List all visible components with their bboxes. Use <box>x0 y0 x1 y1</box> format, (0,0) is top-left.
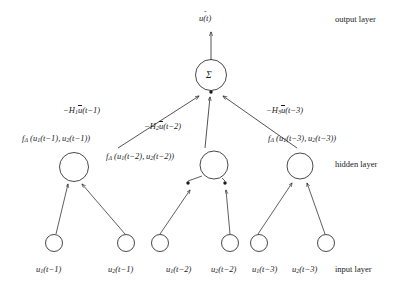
hidden-3-f-sub: Δ <box>270 137 274 143</box>
edge-hidden2-to-output <box>205 97 210 148</box>
weight-1-signal: u <box>78 105 82 115</box>
input-3-time: (t−2) <box>173 264 191 274</box>
weight-3-time: (t−3) <box>285 105 303 115</box>
edge-dotleft-to-hidden2 <box>188 176 202 181</box>
edge-input5-to-hidden3 <box>258 183 292 234</box>
sigma-symbol: Σ <box>206 70 212 80</box>
output-layer-label: output layer <box>335 15 376 24</box>
output-signal-label: ̂u(t) <box>199 14 211 23</box>
hidden-2-close: ) <box>171 151 174 161</box>
hidden-1-close: ) <box>87 133 90 143</box>
weight-2-signal: u <box>159 121 163 131</box>
input-node-6 <box>318 235 335 252</box>
input-label-3: u1(t−2) <box>166 265 191 274</box>
hidden-node-2 <box>200 151 228 179</box>
hidden-3-close: ) <box>333 133 336 143</box>
hidden-1-arg1-time: (t−1) <box>40 133 58 143</box>
input-4-time: (t−2) <box>218 264 236 274</box>
input-node-3 <box>152 235 169 252</box>
input-label-5: u1(t−3) <box>252 265 277 274</box>
input-label-4: u2(t−2) <box>211 265 236 274</box>
input-label-6: u2(t−3) <box>292 265 317 274</box>
input-node-4 <box>222 235 239 252</box>
hidden-function-label-3: fΔ (u1(t−3), u2(t−3)) <box>268 134 336 143</box>
hidden-1-arg2-time: (t−1) <box>69 133 87 143</box>
input-2-time: (t−1) <box>115 264 133 274</box>
edge-input1-to-hidden1 <box>56 184 68 234</box>
output-signal-text: u(t) <box>199 13 211 23</box>
hidden2-input-dot-left <box>186 181 189 184</box>
input-6-time: (t−3) <box>299 264 317 274</box>
weight-2-time: (t−2) <box>163 121 181 131</box>
hidden-2-arg1-time: (t−2) <box>124 151 142 161</box>
hidden-node-1 <box>60 153 89 182</box>
hidden-node-3 <box>287 153 313 179</box>
edge-input2-to-hidden1 <box>82 184 125 234</box>
input-node-1 <box>46 235 63 252</box>
weight-label-2: −H2u(t−2) <box>144 122 181 131</box>
figure-canvas: ̂u(t) Σ output layer hidden layer input … <box>0 0 415 282</box>
weight-1-time: (t−1) <box>82 105 100 115</box>
hidden-3-arg1-time: (t−3) <box>286 133 304 143</box>
edge-input3-to-hidden2 <box>160 190 190 234</box>
hidden2-input-dot-right <box>223 181 226 184</box>
weight-label-3: −H3u(t−3) <box>266 106 303 115</box>
weight-3-signal: u <box>281 105 285 115</box>
hidden-function-label-2: fΔ (u1(t−2), u2(t−2)) <box>106 152 174 161</box>
input-label-1: u1(t−1) <box>36 265 61 274</box>
summing-junction-dot <box>209 90 212 93</box>
edge-input4-to-hidden2 <box>226 190 230 234</box>
hidden-layer-label: hidden layer <box>335 160 377 169</box>
input-node-2 <box>118 235 135 252</box>
input-layer-label: input layer <box>335 265 372 274</box>
hidden-3-arg2-time: (t−3) <box>315 133 333 143</box>
hidden-function-label-1: fΔ (u1(t−1), u2(t−1)) <box>22 134 90 143</box>
input-label-2: u2(t−1) <box>108 265 133 274</box>
input-1-time: (t−1) <box>43 264 61 274</box>
hidden-2-f-sub: Δ <box>108 155 112 161</box>
input-5-time: (t−3) <box>259 264 277 274</box>
hidden-2-arg2-time: (t−2) <box>153 151 171 161</box>
edge-dotright-to-hidden2 <box>222 178 225 181</box>
hidden-1-f-sub: Δ <box>24 137 28 143</box>
input-node-5 <box>251 235 268 252</box>
edge-input6-to-hidden3 <box>307 183 325 234</box>
weight-label-1: −H1u(t−1) <box>63 106 100 115</box>
